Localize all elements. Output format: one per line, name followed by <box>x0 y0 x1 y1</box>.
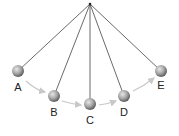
string-b <box>54 4 90 96</box>
string-d <box>90 4 124 96</box>
bob-b <box>48 90 60 102</box>
label-d: D <box>120 106 128 118</box>
arrow-a-to-b <box>26 81 45 92</box>
pendulum-strings <box>18 4 161 104</box>
bob-e <box>155 65 167 77</box>
pivot-point <box>89 3 92 6</box>
arrow-d-to-e <box>133 78 154 91</box>
arrow-b-to-c <box>62 101 81 105</box>
label-c: C <box>86 114 94 126</box>
arrow-c-to-d <box>99 101 116 105</box>
label-a: A <box>14 81 22 93</box>
string-e <box>90 4 161 71</box>
bob-d <box>118 90 130 102</box>
label-b: B <box>50 106 57 118</box>
pendulum-diagram: A B C D E <box>0 0 179 136</box>
bob-a <box>12 65 24 77</box>
label-e: E <box>157 79 164 91</box>
bob-c <box>84 98 96 110</box>
string-a <box>18 4 90 71</box>
